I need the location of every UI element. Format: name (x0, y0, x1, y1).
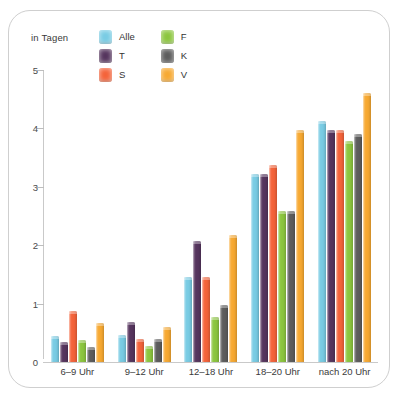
x-axis-label-3: 18–20 Uhr (244, 366, 311, 377)
bar-f-3[interactable] (278, 211, 286, 362)
bar-groups (44, 70, 378, 362)
bar-k-1[interactable] (154, 339, 162, 362)
y-tick-label: 2 (33, 240, 38, 251)
bar-alle-3[interactable] (251, 174, 259, 362)
legend-label: Alle (119, 32, 135, 42)
legend-label: T (119, 51, 125, 61)
legend-swatch-t-icon (99, 49, 112, 63)
y-tick-mark (37, 304, 44, 305)
chart-page: in Tagen AlleFTKSV 012345 6–9 Uhr9–12 Uh… (0, 0, 405, 405)
x-axis-label-2: 12–18 Uhr (178, 366, 245, 377)
bar-v-3[interactable] (296, 130, 304, 362)
bar-t-0[interactable] (60, 342, 68, 362)
bar-s-0[interactable] (69, 311, 77, 362)
bar-k-4[interactable] (354, 134, 362, 362)
x-axis-line (43, 362, 378, 363)
legend-swatch-k-icon (161, 49, 174, 63)
bar-t-4[interactable] (327, 130, 335, 362)
bar-group-0 (44, 70, 111, 362)
bar-alle-0[interactable] (51, 336, 59, 362)
y-tick-mark (37, 187, 44, 188)
x-axis-label-0: 6–9 Uhr (44, 366, 111, 377)
y-axis-unit-label: in Tagen (31, 32, 68, 43)
y-tick-label: 5 (33, 65, 38, 76)
legend-label: K (181, 51, 187, 61)
bar-f-0[interactable] (78, 340, 86, 362)
bar-f-4[interactable] (345, 141, 353, 362)
bar-t-3[interactable] (260, 174, 268, 362)
legend-item-alle[interactable]: Alle (99, 29, 135, 44)
y-tick-mark (37, 245, 44, 246)
y-tick-mark (37, 128, 44, 129)
bar-v-2[interactable] (229, 235, 237, 362)
bar-s-2[interactable] (202, 277, 210, 362)
bar-f-2[interactable] (211, 317, 219, 362)
bar-group-3 (244, 70, 311, 362)
bar-s-3[interactable] (269, 165, 277, 362)
y-tick-label: 0 (33, 357, 38, 368)
legend-item-t[interactable]: T (99, 48, 135, 63)
legend-item-f[interactable]: F (161, 29, 187, 44)
x-axis-label-4: nach 20 Uhr (311, 366, 378, 377)
legend-swatch-alle-icon (99, 30, 112, 44)
bar-v-4[interactable] (363, 93, 371, 362)
legend-item-k[interactable]: K (161, 48, 187, 63)
bar-group-2 (178, 70, 245, 362)
bar-alle-4[interactable] (318, 121, 326, 362)
x-axis-labels: 6–9 Uhr9–12 Uhr12–18 Uhr18–20 Uhrnach 20… (44, 366, 378, 377)
x-axis-label-1: 9–12 Uhr (111, 366, 178, 377)
y-tick-label: 3 (33, 181, 38, 192)
y-tick-mark (37, 70, 44, 71)
bar-s-4[interactable] (336, 130, 344, 362)
bar-group-4 (311, 70, 378, 362)
y-tick-label: 4 (33, 123, 38, 134)
bar-k-2[interactable] (220, 305, 228, 362)
bar-k-3[interactable] (287, 211, 295, 362)
bar-t-1[interactable] (127, 322, 135, 362)
y-tick-label: 1 (33, 298, 38, 309)
bar-group-1 (111, 70, 178, 362)
bar-t-2[interactable] (193, 241, 201, 362)
bar-k-0[interactable] (87, 347, 95, 362)
legend-swatch-f-icon (161, 30, 174, 44)
bar-s-1[interactable] (136, 339, 144, 362)
bar-alle-2[interactable] (184, 277, 192, 362)
bar-alle-1[interactable] (118, 335, 126, 362)
bar-v-0[interactable] (96, 323, 104, 362)
plot-area: 012345 (43, 66, 378, 363)
bar-v-1[interactable] (163, 327, 171, 362)
bar-f-1[interactable] (145, 346, 153, 362)
legend-label: F (181, 32, 187, 42)
